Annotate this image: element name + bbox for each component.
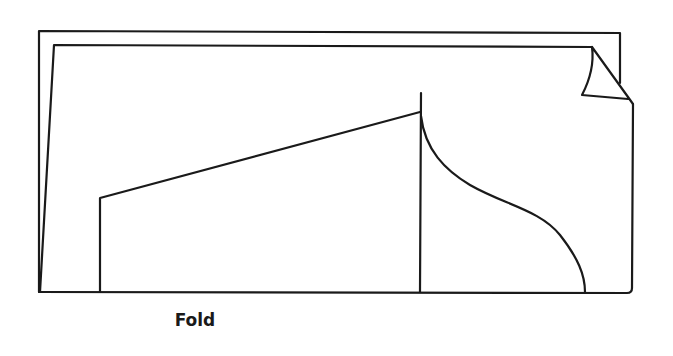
pattern-piece-center-line <box>420 93 421 292</box>
pattern-piece-curve <box>421 116 585 292</box>
pattern-piece-left-side <box>100 112 420 292</box>
pattern-diagram <box>0 0 673 356</box>
fold-label: Fold <box>160 310 230 330</box>
curled-corner <box>582 47 633 104</box>
page-right-and-bottom-edge <box>39 104 633 293</box>
outer-page-outline <box>39 31 620 292</box>
inner-page-top-edge <box>40 45 592 292</box>
